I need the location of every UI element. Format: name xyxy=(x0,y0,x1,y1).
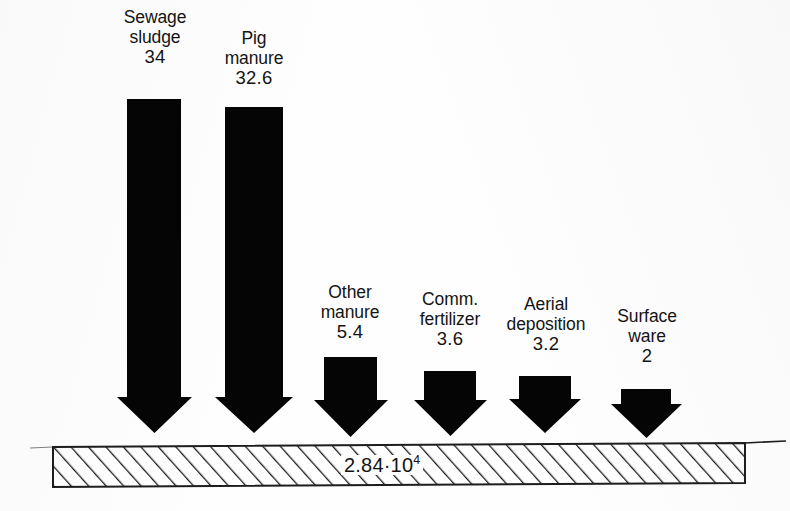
figure-canvas: Sewage sludge 34 Pig manure 32.6 Other m… xyxy=(0,0,790,511)
arrow-comm-fertilizer[interactable] xyxy=(414,371,487,436)
arrow-surface-ware[interactable] xyxy=(611,389,682,438)
arrow-sewage-sludge[interactable] xyxy=(117,99,192,433)
arrow-aerial-deposition[interactable] xyxy=(509,376,581,433)
arrow-group xyxy=(117,99,682,438)
value-surface-ware: 2 xyxy=(577,346,717,367)
reservoir-top-rule-extension xyxy=(745,441,786,443)
label-line-1: Pig xyxy=(184,29,324,49)
reservoir-total-label: 2.84·104 xyxy=(341,455,423,475)
label-line-2: manure xyxy=(184,49,324,69)
arrow-pig-manure[interactable] xyxy=(215,107,293,433)
label-line-2: ware xyxy=(577,327,717,347)
reservoir-top-rule-left-extension xyxy=(30,447,53,448)
arrow-flux-chart xyxy=(0,0,790,511)
arrow-other-manure[interactable] xyxy=(314,357,388,437)
label-pig-manure: Pig manure 32.6 xyxy=(184,29,324,89)
reservoir-total-exponent: 4 xyxy=(413,453,420,467)
label-surface-ware: Surface ware 2 xyxy=(577,307,717,367)
value-pig-manure: 32.6 xyxy=(184,68,324,89)
reservoir-total-mantissa: 2.84·10 xyxy=(344,454,413,476)
label-line-1: Sewage xyxy=(85,8,225,28)
label-line-1: Surface xyxy=(577,307,717,327)
